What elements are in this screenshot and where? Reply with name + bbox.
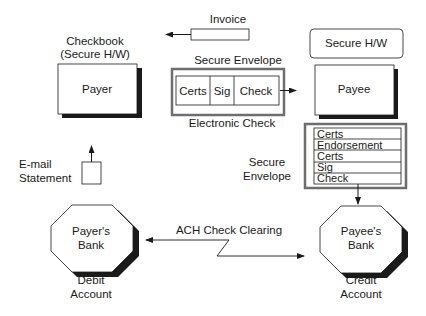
invoice-label: Invoice [210, 13, 246, 25]
endorsed-envelope-label-line1: Secure [249, 156, 285, 168]
electronic-check-caption: Electronic Check [189, 117, 276, 129]
envelope-label: Secure Envelope [194, 54, 282, 66]
endorsed-envelope: Secure Envelope Certs Endorsement Certs … [243, 124, 406, 204]
payer-label: Payer [82, 83, 112, 95]
ach-clearing: ACH Check Clearing [146, 224, 304, 256]
statement-label-line1: E-mail [19, 158, 52, 170]
payer-bank-caption-line1: Debit [78, 274, 106, 286]
electronic-check-diagram: Invoice Checkbook (Secure H/W) Payer Sec… [0, 0, 426, 316]
payee-bank-caption-line2: Account [340, 288, 382, 300]
ach-clearing-label: ACH Check Clearing [176, 224, 282, 236]
payee-label: Payee [338, 83, 371, 95]
statement-box [82, 162, 101, 184]
invoice-box [191, 29, 249, 40]
payee-bank-label-line2: Bank [348, 239, 374, 251]
secure-hw-label: Secure H/W [325, 37, 387, 49]
payer-bank-label-line1: Payer's [72, 225, 110, 237]
field-sig: Sig [214, 85, 231, 97]
ach-arrow-right [217, 240, 304, 256]
payer-caption-line1: Checkbook [66, 35, 124, 47]
payer-caption-line2: (Secure H/W) [60, 48, 130, 60]
invoice: Invoice [166, 13, 249, 40]
email-statement: E-mail Statement [19, 146, 101, 184]
payee-node: Secure H/W Payee [310, 29, 403, 119]
field-check: Check [240, 85, 273, 97]
payer-bank-label-line2: Bank [78, 239, 104, 251]
statement-label-line2: Statement [19, 172, 72, 184]
field-certs: Certs [179, 85, 207, 97]
payer-node: Checkbook (Secure H/W) Payer [58, 35, 142, 118]
payer-bank-node: Payer's Bank Debit Account [51, 205, 139, 300]
payee-bank-caption-line1: Credit [346, 274, 377, 286]
payee-bank-label-line1: Payee's [341, 225, 382, 237]
payee-bank-node: Payee's Bank Credit Account [320, 206, 408, 300]
payer-bank-caption-line2: Account [70, 288, 112, 300]
endorsed-envelope-label-line2: Envelope [243, 170, 291, 182]
row-check: Check [317, 172, 349, 184]
electronic-check: Secure Envelope Certs Sig Check Electron… [172, 54, 296, 129]
